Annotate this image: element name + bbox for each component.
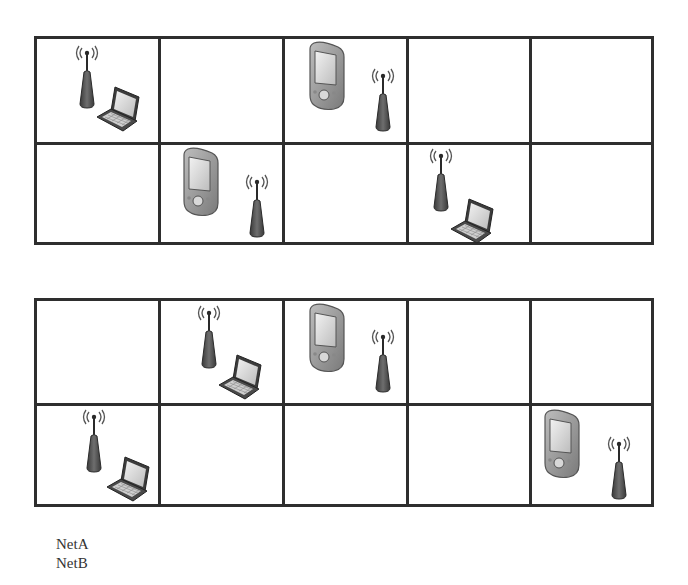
legend-item-neta: NetA bbox=[56, 535, 89, 554]
laptop-icon bbox=[217, 351, 265, 401]
pda-icon bbox=[308, 303, 346, 373]
antenna-tower-icon bbox=[371, 328, 395, 394]
laptop-icon bbox=[449, 195, 497, 245]
grid-divider bbox=[158, 39, 161, 242]
pda-icon bbox=[182, 147, 220, 217]
pda-icon bbox=[543, 409, 581, 479]
antenna-tower-icon bbox=[82, 408, 106, 474]
grid-divider bbox=[37, 403, 651, 406]
antenna-tower-icon bbox=[371, 67, 395, 133]
network-grid-bottom bbox=[34, 298, 654, 507]
grid-divider bbox=[529, 39, 532, 242]
network-grid-top bbox=[34, 36, 654, 245]
grid-divider bbox=[37, 142, 651, 145]
grid-divider bbox=[282, 39, 285, 242]
antenna-tower-icon bbox=[607, 435, 631, 501]
pda-icon bbox=[308, 41, 346, 111]
laptop-icon bbox=[95, 83, 143, 133]
laptop-icon bbox=[105, 453, 153, 503]
antenna-tower-icon bbox=[245, 173, 269, 239]
legend-item-netb: NetB bbox=[56, 554, 89, 573]
legend: NetA NetB bbox=[56, 535, 89, 573]
grid-divider bbox=[406, 39, 409, 242]
